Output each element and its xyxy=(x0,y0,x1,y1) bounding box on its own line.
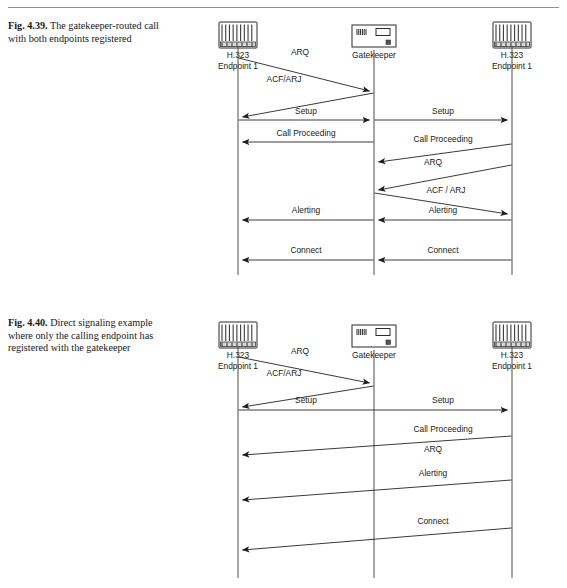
message-label: ACF / ARJ xyxy=(426,185,465,195)
h323-endpoint-icon-base xyxy=(495,42,530,47)
message-label: Connect xyxy=(427,245,459,255)
sequence-diagram-4-39: H.323Endpoint 1GatekeeperH.323Endpoint 1… xyxy=(180,10,567,285)
message-label: Call Proceeding xyxy=(413,134,472,144)
figure-caption-lead: Fig. 4.40. xyxy=(8,317,48,328)
message-4: Call Proceeding xyxy=(243,128,374,142)
message-label: ARQ xyxy=(424,157,443,167)
message-5: ARQ xyxy=(424,444,443,454)
figure-caption-lead: Fig. 4.39. xyxy=(8,20,48,31)
figure-caption-4-39: Fig. 4.39. The gatekeeper-routed call wi… xyxy=(8,20,178,45)
message-6: Alerting xyxy=(243,468,512,500)
message-label: Setup xyxy=(432,106,454,116)
message-label: Alerting xyxy=(292,205,321,215)
message-arrow xyxy=(239,58,370,91)
gatekeeper-icon-indicator xyxy=(386,40,391,45)
message-10: Connect xyxy=(243,245,374,260)
message-label: Alerting xyxy=(429,205,458,215)
message-label: Alerting xyxy=(419,468,448,478)
message-label: ACF/ARJ xyxy=(267,74,302,84)
message-label: Connect xyxy=(290,245,322,255)
message-label: ACF/ARJ xyxy=(267,368,302,378)
message-3: Setup xyxy=(432,395,454,405)
h323-endpoint-icon-base xyxy=(495,342,530,347)
message-label: Connect xyxy=(417,516,449,526)
message-4: Call Proceeding xyxy=(243,424,512,455)
message-arrow xyxy=(243,480,512,500)
message-9: Alerting xyxy=(379,205,512,220)
sequence-diagram-4-40: H.323Endpoint 1GatekeeperH.323Endpoint 1… xyxy=(180,310,567,588)
message-label: Setup xyxy=(295,395,317,405)
message-label: ARQ xyxy=(291,346,310,356)
message-0: ARQ xyxy=(239,346,370,383)
message-arrow xyxy=(239,357,370,383)
h323-endpoint-icon-base xyxy=(221,342,256,347)
message-label: ARQ xyxy=(291,47,310,57)
message-label: Call Proceeding xyxy=(413,424,472,434)
h323-endpoint-icon-base xyxy=(221,42,256,47)
message-0: ARQ xyxy=(239,47,370,91)
message-7: Connect xyxy=(243,516,512,550)
message-2: Setup xyxy=(239,395,508,410)
gatekeeper-icon-indicator xyxy=(386,340,391,345)
page-top-rule xyxy=(8,7,559,8)
figure-caption-4-40: Fig. 4.40. Direct signaling example wher… xyxy=(8,317,178,355)
figure-page: Fig. 4.39. The gatekeeper-routed call wi… xyxy=(0,0,567,588)
message-2: Setup xyxy=(239,106,370,120)
message-arrow xyxy=(243,436,512,455)
message-label: Setup xyxy=(432,395,454,405)
message-label: Setup xyxy=(295,106,317,116)
message-label: ARQ xyxy=(424,444,443,454)
message-arrow xyxy=(379,144,512,162)
message-5: Call Proceeding xyxy=(379,134,512,162)
message-8: Alerting xyxy=(243,205,374,220)
message-3: Setup xyxy=(375,106,508,120)
gatekeeper-icon-screen xyxy=(376,29,390,36)
gatekeeper-icon-screen xyxy=(376,329,390,336)
message-label: Call Proceeding xyxy=(276,128,335,138)
message-11: Connect xyxy=(379,245,512,260)
message-arrow xyxy=(243,528,512,550)
